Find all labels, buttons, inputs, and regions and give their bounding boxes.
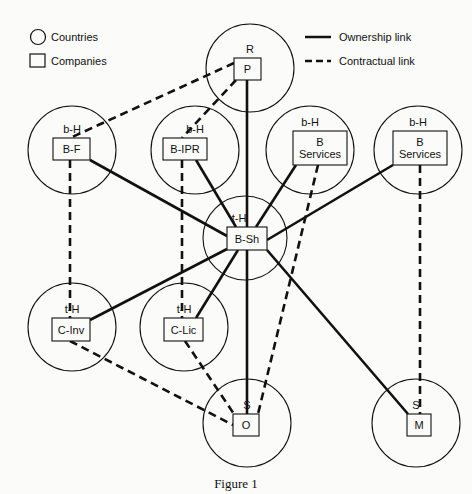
company-label: C-Lic: [171, 324, 197, 336]
country-label: b-H: [409, 116, 427, 128]
figure-caption: Figure 1: [214, 476, 258, 491]
company-label: B-Sh: [235, 233, 259, 245]
company-label: B: [416, 136, 423, 148]
contractual-link: [182, 80, 236, 138]
company-label: B: [316, 136, 323, 148]
company-label: P: [244, 63, 251, 75]
legend-ownership: Ownership link: [339, 31, 412, 43]
country-label: b-H: [301, 116, 319, 128]
legend-contractual: Contractual link: [339, 55, 415, 67]
company-label: Services: [399, 148, 442, 160]
company-label: B-F: [63, 143, 81, 155]
company-label: B-IPR: [170, 143, 199, 155]
company-label: Services: [299, 148, 342, 160]
country-label: R: [246, 43, 254, 55]
ownership-link: [90, 160, 227, 236]
contractual-link: [70, 341, 233, 425]
ownership-link: [90, 249, 227, 320]
legend-companies: Companies: [51, 55, 107, 67]
legend: Countries Companies Ownership link Contr…: [30, 30, 415, 68]
ownership-link: [267, 165, 393, 240]
country-legend-icon: [31, 30, 46, 45]
company-label: M: [414, 419, 423, 431]
country-label: t-H: [65, 303, 80, 315]
company-legend-icon: [30, 54, 45, 67]
country-label: t-H: [177, 303, 192, 315]
ownership-link: [196, 250, 238, 318]
company-label: O: [242, 419, 251, 431]
country-label: S: [412, 399, 419, 411]
contractual-link: [70, 63, 234, 138]
ownership-diagram: Countries Companies Ownership link Contr…: [0, 0, 472, 494]
company-label: C-Inv: [58, 324, 85, 336]
ownership-link: [267, 250, 408, 414]
ownership-link: [256, 165, 296, 227]
legend-countries: Countries: [51, 31, 99, 43]
